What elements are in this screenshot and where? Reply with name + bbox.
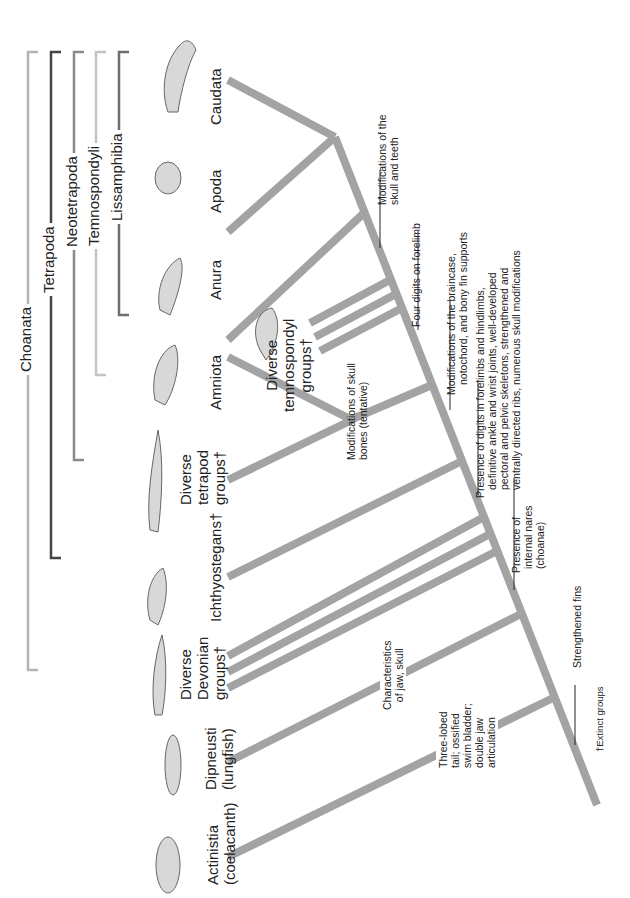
- diverse-tetrapod-illustration: [149, 430, 162, 532]
- caudata-illustration: [164, 41, 196, 112]
- char-internal-nares: Presence of internal nares (choanae): [510, 505, 546, 573]
- char-three-lobed: Three-lobed tail; ossified swim bladder;…: [436, 701, 498, 770]
- char-strengthened-fins: Strengthened fins: [571, 586, 583, 668]
- clade-label-temnospondyli: Temnospondyli: [86, 143, 103, 249]
- char-skull-teeth: Modifications of the skull and teeth: [376, 115, 400, 205]
- amniota-illustration: [154, 345, 178, 405]
- taxon-anura: Anura: [208, 260, 225, 300]
- branches: [228, 80, 597, 857]
- cladogram-tree: [0, 0, 630, 898]
- bracket-neotetrapoda: [74, 52, 84, 460]
- taxon-diverse-devonian: Diverse Devonian groups†: [178, 637, 228, 700]
- branch-devonian-3: [228, 551, 497, 688]
- clade-label-tetrapoda: Tetrapoda: [41, 223, 58, 296]
- clade-label-choanata: Choanata: [18, 304, 35, 375]
- taxon-amniota: Amniota: [208, 355, 225, 410]
- branch-actinistia: [228, 698, 553, 857]
- taxon-apoda: Apoda: [208, 170, 225, 213]
- anura-illustration: [159, 258, 182, 315]
- dipneusti-illustration: [165, 735, 181, 795]
- ichthyostegan-illustration: [148, 568, 167, 625]
- char-four-digits: Four digits on forelimb: [410, 223, 422, 327]
- apoda-illustration: [155, 162, 181, 194]
- clade-label-neotetrapoda: Neotetrapoda: [64, 153, 81, 250]
- branch-caudata: [228, 80, 335, 137]
- taxon-diverse-temnospondyl: Diverse temnospondyl groups†: [264, 319, 314, 412]
- branch-apoda: [228, 137, 335, 232]
- branch-devonian-1: [228, 517, 484, 656]
- taxon-diverse-tetrapod: Diverse tetrapod groups†: [178, 450, 228, 505]
- devonian-illustration: [153, 635, 166, 715]
- actinistia-illustration: [156, 837, 180, 893]
- clade-label-lissamphibia: Lissamphibia: [109, 130, 126, 224]
- char-braincase: Modifications of the braincase, notochor…: [445, 232, 469, 395]
- char-jaw-skull: Characteristics of jaw, skull: [380, 639, 406, 712]
- char-digits-limbs: Presence of digits in forelimbs and hind…: [474, 250, 522, 498]
- taxon-caudata: Caudata: [208, 68, 225, 125]
- char-skull-bones: Modifications of skull bones (tentative): [345, 363, 369, 460]
- branch-ichthyostegans: [228, 461, 462, 577]
- footnote-extinct: †Extinct groups: [595, 687, 606, 752]
- taxon-ichthyostegans: Ichthyostegans†: [208, 513, 225, 622]
- bracket-tetrapoda: [51, 52, 61, 558]
- branch-diverse-tetrapod: [228, 420, 352, 480]
- taxon-actinistia: Actinistia (coelacanth): [205, 802, 239, 885]
- taxon-dipneusti: Dipneusti (lungfish): [203, 727, 237, 790]
